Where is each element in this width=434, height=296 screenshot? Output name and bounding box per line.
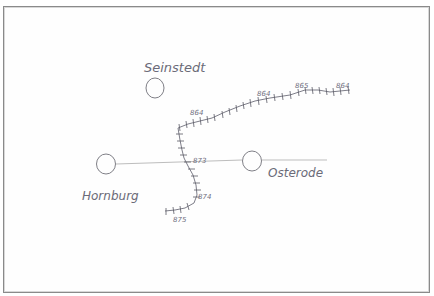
km-marker: 864	[190, 109, 203, 117]
sketch-map: Seinstedt Hornburg Osterode 864 864 865 …	[0, 0, 434, 296]
town-osterode: Osterode	[243, 151, 324, 180]
town-circle-icon	[97, 154, 116, 174]
town-seinstedt: Seinstedt	[144, 60, 206, 98]
town-circle-icon	[146, 78, 164, 98]
town-hornburg: Hornburg	[82, 154, 139, 203]
km-marker: 864	[336, 82, 349, 90]
track-markers: 864 864 865 864 873 874 875	[173, 82, 349, 224]
km-marker: 865	[295, 82, 309, 90]
km-marker: 864	[257, 90, 270, 98]
road-line	[116, 160, 327, 164]
town-label: Hornburg	[82, 189, 139, 203]
town-circle-icon	[243, 151, 262, 171]
km-marker: 873	[193, 157, 206, 165]
town-label: Seinstedt	[144, 60, 206, 75]
km-marker: 875	[173, 216, 187, 224]
track-line	[165, 86, 350, 215]
town-label: Osterode	[268, 166, 323, 180]
km-marker: 874	[198, 193, 211, 201]
